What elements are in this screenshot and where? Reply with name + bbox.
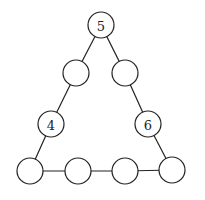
node-top: 5 <box>88 12 114 38</box>
node-circle <box>17 158 43 184</box>
node-right-upper <box>112 60 138 86</box>
node-right-lower: 6 <box>135 111 161 137</box>
node-bottom-3 <box>112 158 138 184</box>
node-label: 6 <box>144 118 152 133</box>
node-bottom-4 <box>159 157 185 183</box>
triangle-diagram: 546 <box>0 0 205 200</box>
node-circle <box>65 158 91 184</box>
node-left-upper <box>63 60 89 86</box>
node-circle <box>112 60 138 86</box>
node-left-lower: 4 <box>38 111 64 137</box>
node-bottom-1 <box>17 158 43 184</box>
nodes: 546 <box>17 12 185 184</box>
node-circle <box>63 60 89 86</box>
node-circle <box>112 158 138 184</box>
edges <box>30 25 172 171</box>
node-label: 4 <box>47 118 55 133</box>
node-circle <box>159 157 185 183</box>
node-bottom-2 <box>65 158 91 184</box>
node-label: 5 <box>97 19 105 34</box>
